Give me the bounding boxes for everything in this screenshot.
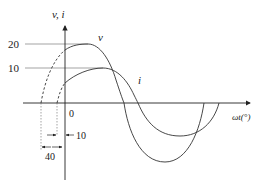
dim-40-label: 40 [45,151,55,162]
i-curve-label: i [138,74,141,86]
v-curve-dashed [41,50,65,103]
dim-10-label: 10 [76,130,86,141]
i-curve [65,68,219,136]
waveform-diagram: v, i ωt(°) 0 20 10 v i 10 40 [0,0,259,189]
level-10-label: 10 [8,62,20,74]
i-curve-dashed [57,83,65,103]
origin-label: 0 [69,108,74,119]
v-curve-label: v [98,31,103,43]
y-axis-label: v, i [52,8,65,20]
x-axis-label: ωt(°) [232,112,250,122]
level-20-label: 20 [8,38,20,50]
